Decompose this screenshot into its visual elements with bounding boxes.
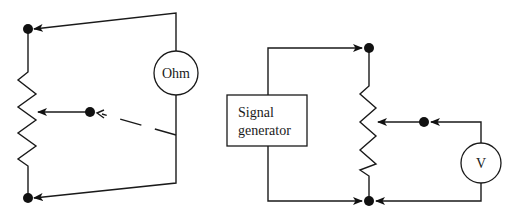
generator-bottom-lead	[268, 146, 362, 201]
signal-generator-box	[227, 95, 307, 146]
voltmeter-top-lead	[431, 122, 481, 143]
top-terminal-dot	[23, 24, 33, 34]
generator-top-lead	[268, 48, 362, 95]
movable-lead-dashed	[102, 114, 176, 135]
ohmmeter-label: Ohm	[162, 66, 190, 81]
voltmeter-label: V	[476, 156, 486, 171]
wiper-terminal-dot	[419, 117, 429, 127]
signal-generator-label-line2: generator	[238, 123, 291, 138]
left-circuit-ohmmeter: Ohm	[18, 13, 198, 203]
potentiometer-resistor	[360, 48, 376, 201]
signal-generator-label-line1: Signal	[238, 105, 274, 120]
bottom-terminal-dot	[364, 196, 374, 206]
voltmeter-bottom-lead	[376, 183, 481, 201]
potentiometer-resistor	[18, 29, 36, 198]
top-lead-wire	[34, 13, 176, 73]
bottom-terminal-dot	[23, 193, 33, 203]
top-terminal-dot	[364, 43, 374, 53]
bottom-lead-wire	[34, 95, 176, 198]
potentiometer-circuit-diagram: Ohm Signal generator V	[0, 0, 511, 209]
right-circuit-voltage-divider: Signal generator V	[227, 43, 501, 206]
wiper-terminal-dot	[85, 107, 95, 117]
